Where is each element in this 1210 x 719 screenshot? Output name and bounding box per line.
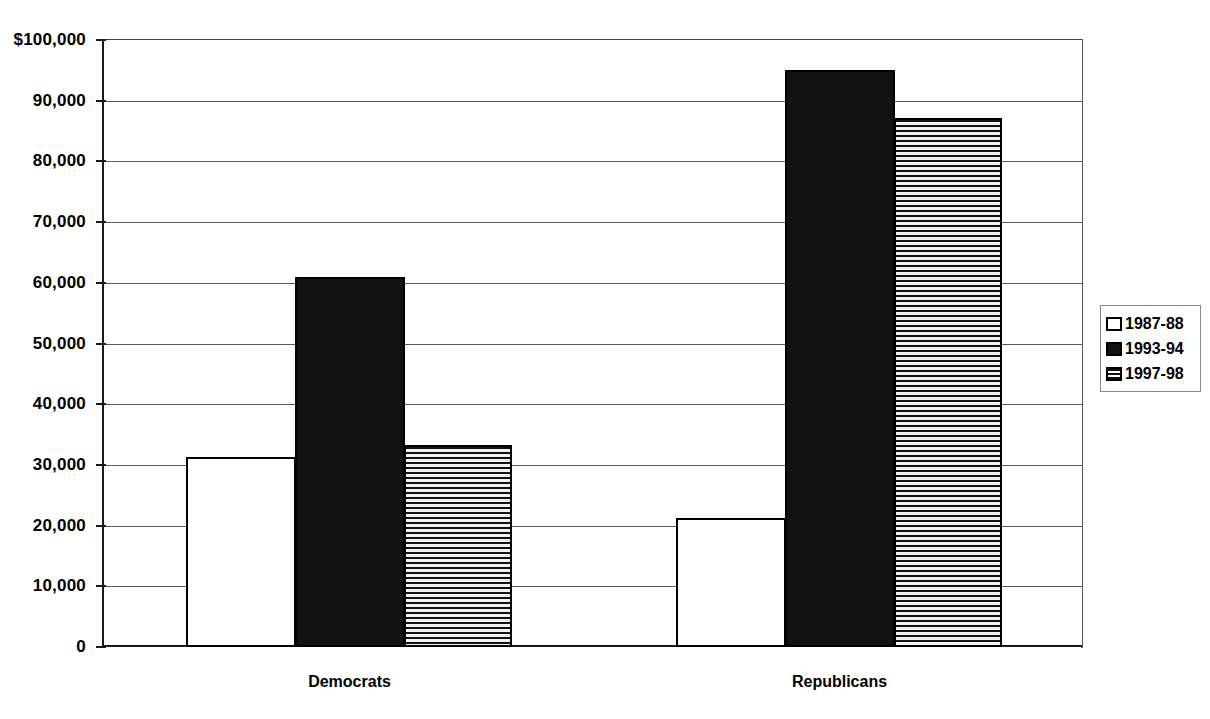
y-axis-tick xyxy=(96,525,106,527)
y-axis-label: 0 xyxy=(76,638,86,655)
y-axis-label: 50,000 xyxy=(33,335,86,352)
y-axis-label: 70,000 xyxy=(33,213,86,230)
legend-item-1993-94[interactable]: 1993-94 xyxy=(1106,336,1196,361)
y-axis-label: 30,000 xyxy=(33,456,86,473)
legend-swatch-empty-icon xyxy=(1106,317,1122,331)
bar-chart: 010,00020,00030,00040,00050,00060,00070,… xyxy=(0,0,1210,719)
y-axis-label: 10,000 xyxy=(33,577,86,594)
y-axis-label: 20,000 xyxy=(33,517,86,534)
y-axis-tick xyxy=(96,39,106,41)
y-axis-label: 60,000 xyxy=(33,274,86,291)
bar-republicans-1987-88 xyxy=(676,518,786,647)
legend-item-label: 1987-88 xyxy=(1125,316,1184,332)
y-axis-tick xyxy=(96,585,106,587)
bar-democrats-1993-94 xyxy=(295,277,405,647)
y-axis-label: 40,000 xyxy=(33,395,86,412)
legend-item-1987-88[interactable]: 1987-88 xyxy=(1106,311,1196,336)
legend-item-1997-98[interactable]: 1997-98 xyxy=(1106,361,1196,386)
legend-item-label: 1993-94 xyxy=(1125,341,1184,357)
gridline xyxy=(102,101,1082,102)
y-axis-tick xyxy=(96,403,106,405)
legend-swatch-hstripe-icon xyxy=(1106,367,1122,381)
y-axis-tick xyxy=(96,343,106,345)
y-axis-tick xyxy=(96,100,106,102)
y-axis-tick xyxy=(96,464,106,466)
bar-republicans-1993-94 xyxy=(785,70,895,647)
chart-legend: 1987-881993-941997-98 xyxy=(1100,305,1201,392)
x-axis-label-democrats: Democrats xyxy=(308,674,391,690)
legend-swatch-solid-icon xyxy=(1106,342,1122,356)
bar-republicans-1997-98 xyxy=(894,118,1002,647)
y-axis-tick xyxy=(96,282,106,284)
bar-democrats-1997-98 xyxy=(404,445,512,647)
y-axis-tick xyxy=(96,160,106,162)
y-axis-tick xyxy=(96,646,106,648)
y-axis-label: 80,000 xyxy=(33,152,86,169)
bar-democrats-1987-88 xyxy=(186,457,296,647)
y-axis-label: 90,000 xyxy=(33,92,86,109)
legend-item-label: 1997-98 xyxy=(1125,366,1184,382)
x-axis-label-republicans: Republicans xyxy=(792,674,887,690)
y-axis-tick xyxy=(96,221,106,223)
y-axis-label: $100,000 xyxy=(13,31,86,48)
